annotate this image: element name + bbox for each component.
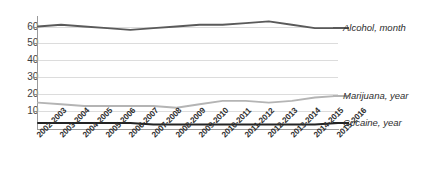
- legend-label-alcohol-month: Alcohol, month: [343, 22, 406, 33]
- line-chart: 102030405060 2002-20032003-20042004-2005…: [0, 0, 428, 187]
- legend-label-cocaine-year: Cocaine, year: [343, 117, 402, 128]
- legend-label-marijuana-year: Marijuana, year: [343, 90, 408, 101]
